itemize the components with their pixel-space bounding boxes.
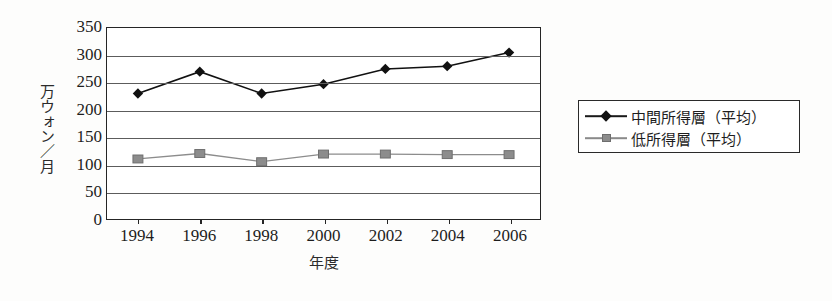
x-axis-tick-label: 1998 <box>226 226 296 246</box>
x-axis-title: 年度 <box>106 251 541 272</box>
chart-figure: 万ウォン／月 350300250200150100500 19941996199… <box>0 0 832 301</box>
y-axis-tick-label: 250 <box>58 72 102 92</box>
data-point-marker-diamond <box>318 79 328 89</box>
y-axis-tick-label: 150 <box>58 127 102 147</box>
y-axis-title: 万ウォン／月 <box>26 56 56 201</box>
data-point-marker-square <box>133 155 143 163</box>
data-point-marker-diamond <box>442 61 452 71</box>
data-point-marker-square <box>195 150 205 158</box>
y-axis-tick-label: 50 <box>58 182 102 202</box>
plot-area <box>106 27 541 220</box>
gridline <box>107 166 540 167</box>
legend-marker-square-icon <box>602 134 611 142</box>
x-axis-tickmark <box>511 219 512 224</box>
data-point-marker-square <box>380 150 390 158</box>
data-point-marker-square <box>257 158 267 166</box>
y-axis-tick-label: 100 <box>58 155 102 175</box>
series-2 <box>133 150 514 166</box>
gridline <box>107 193 540 194</box>
x-axis-tick-labels: 1994199619982000200220042006 <box>106 226 541 248</box>
y-axis-tick-labels: 350300250200150100500 <box>58 20 102 228</box>
x-axis-tickmark <box>200 219 201 224</box>
data-point-marker-square <box>319 150 329 158</box>
legend-marker-diamond-icon <box>600 110 611 121</box>
x-axis-tickmark <box>262 219 263 224</box>
x-axis-tick-label: 2002 <box>351 226 421 246</box>
x-axis-tickmark <box>387 219 388 224</box>
data-point-marker-square <box>442 151 452 159</box>
y-axis-tick-label: 300 <box>58 45 102 65</box>
y-axis-tick-label: 0 <box>58 210 102 230</box>
chart-legend: 中間所得層（平均）低所得層（平均） <box>578 100 800 153</box>
x-axis-tick-label: 2006 <box>475 226 545 246</box>
y-axis-tick-label: 350 <box>58 17 102 37</box>
legend-item[interactable]: 中間所得層（平均） <box>585 105 793 127</box>
x-axis-tickmark <box>325 219 326 224</box>
y-axis-tick-label: 200 <box>58 100 102 120</box>
x-axis-tick-label: 1994 <box>102 226 172 246</box>
legend-item[interactable]: 低所得層（平均） <box>585 127 793 149</box>
data-point-marker-square <box>504 151 514 159</box>
data-point-marker-diamond <box>380 64 390 74</box>
data-point-marker-diamond <box>195 67 205 77</box>
x-axis-tickmark <box>449 219 450 224</box>
legend-item-label: 中間所得層（平均） <box>631 106 766 127</box>
legend-item-label: 低所得層（平均） <box>631 128 751 149</box>
gridline <box>107 56 540 57</box>
x-axis-tickmark <box>138 219 139 224</box>
legend-swatch-square-icon <box>585 130 627 146</box>
gridline <box>107 138 540 139</box>
gridline <box>107 83 540 84</box>
data-point-marker-diamond <box>256 88 266 98</box>
legend-swatch-diamond-icon <box>585 108 627 124</box>
data-point-marker-diamond <box>133 88 143 98</box>
plot-series-svg <box>107 28 540 219</box>
gridline <box>107 111 540 112</box>
x-axis-tick-label: 2000 <box>289 226 359 246</box>
x-axis-tick-label: 1996 <box>164 226 234 246</box>
x-axis-tick-label: 2004 <box>413 226 483 246</box>
